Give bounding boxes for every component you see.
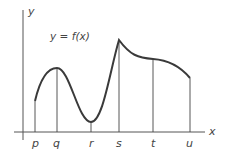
y-axis-label: y [27,5,35,18]
tick-label-p: p [31,137,39,150]
tick-label-r: r [89,137,95,150]
vertical-guides [35,40,190,132]
tick-label-u: u [186,137,193,150]
tick-label-s: s [116,137,122,150]
tick-label-t: t [151,137,156,150]
function-curve [35,40,190,122]
x-axis-label: x [208,125,216,138]
tick-label-q: q [53,137,60,150]
function-label: y = f(x) [49,30,90,42]
function-graph: y y = f(x) x p q r s t u [0,0,229,151]
